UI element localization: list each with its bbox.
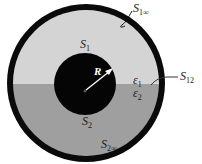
label-s1: S1 [80,38,90,55]
label-s1-infinity: S1∞ [133,2,149,19]
two-media-sphere-diagram: S1∞ S1 R ε1 S12 ε2 S2 S2∞ [0,0,202,164]
label-epsilon-2: ε2 [133,87,142,104]
label-s12-interface: S12 [180,70,194,87]
label-radius: R [94,65,101,77]
label-s2: S2 [82,115,92,132]
label-s2-infinity: S2∞ [101,138,117,155]
inner-disk [54,53,116,115]
